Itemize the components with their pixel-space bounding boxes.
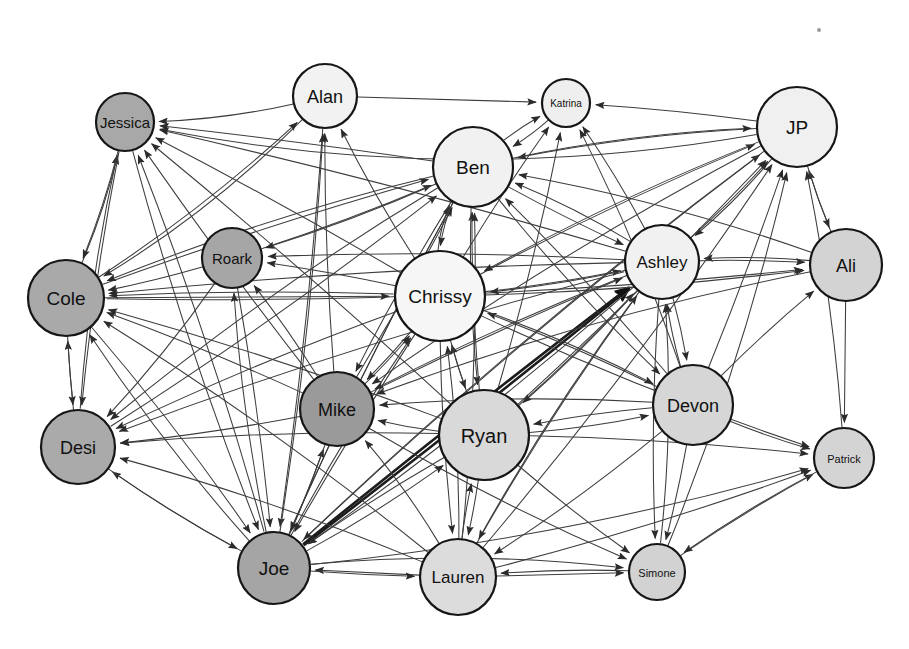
graph-edge [358, 97, 536, 102]
graph-edge [138, 155, 264, 531]
network-graph-svg: JessicaAlanKatrinaJPBenRoarkAshleyAliCol… [0, 0, 909, 649]
graph-node-roark[interactable]: Roark [202, 228, 262, 288]
graph-node-desi[interactable]: Desi [41, 410, 115, 484]
node-circle-devon[interactable] [653, 365, 733, 445]
node-circle-ben[interactable] [433, 127, 513, 207]
graph-edge [844, 301, 845, 422]
graph-edge [68, 336, 73, 405]
paper-specks-layer [817, 28, 821, 32]
graph-edge [808, 166, 830, 227]
graph-edge [112, 472, 242, 552]
graph-edge [234, 293, 266, 532]
graph-edge [518, 129, 757, 158]
graph-node-joe[interactable]: Joe [238, 532, 310, 604]
graph-node-chrissy[interactable]: Chrissy [395, 251, 485, 341]
graph-edge [721, 291, 813, 376]
graph-edge [109, 263, 624, 294]
node-circle-simone[interactable] [629, 544, 685, 600]
graph-edge [105, 296, 389, 298]
paper-speck [817, 28, 821, 32]
graph-edge [534, 408, 653, 425]
node-circle-mike[interactable] [300, 372, 374, 446]
node-circle-ali[interactable] [810, 229, 882, 301]
graph-edge [307, 465, 444, 550]
graph-node-ali[interactable]: Ali [810, 229, 882, 301]
node-circle-joe[interactable] [238, 532, 310, 604]
graph-edge [700, 260, 805, 262]
graph-edge [91, 327, 250, 533]
graph-node-simone[interactable]: Simone [629, 544, 685, 600]
graph-edge [468, 480, 478, 535]
graph-node-ben[interactable]: Ben [433, 127, 513, 207]
graph-edge [159, 104, 293, 122]
graph-edge [496, 573, 623, 576]
graph-edge [83, 150, 118, 258]
node-circle-cole[interactable] [28, 260, 104, 336]
network-graph-canvas: JessicaAlanKatrinaJPBenRoarkAshleyAliCol… [0, 0, 909, 649]
graph-edge [267, 263, 395, 286]
graph-edge [280, 128, 323, 526]
graph-node-jessica[interactable]: Jessica [96, 93, 154, 151]
graph-node-ashley[interactable]: Ashley [625, 225, 699, 299]
graph-edge [508, 187, 623, 245]
node-circle-patrick[interactable] [814, 428, 874, 488]
node-circle-ryan[interactable] [439, 390, 529, 480]
graph-node-patrick[interactable]: Patrick [814, 428, 874, 488]
graph-node-katrina[interactable]: Katrina [542, 79, 590, 127]
node-circle-roark[interactable] [202, 228, 262, 288]
graph-edge [308, 457, 444, 543]
nodes-layer: JessicaAlanKatrinaJPBenRoarkAshleyAliCol… [28, 64, 882, 615]
graph-edge [504, 116, 541, 140]
graph-edge [513, 128, 751, 158]
graph-edge [730, 421, 810, 449]
node-circle-lauren[interactable] [420, 539, 496, 615]
graph-node-ryan[interactable]: Ryan [439, 390, 529, 480]
graph-edge [518, 465, 630, 553]
graph-edge [111, 188, 438, 420]
graph-edge [680, 474, 813, 555]
graph-edge [515, 183, 630, 242]
node-circle-ashley[interactable] [625, 225, 699, 299]
graph-edge [668, 173, 787, 546]
graph-edge [108, 267, 203, 290]
node-circle-alan[interactable] [293, 64, 357, 128]
graph-edge [302, 155, 760, 542]
graph-edge [108, 310, 441, 419]
graph-edge [160, 126, 433, 161]
graph-edge [109, 469, 237, 549]
node-circle-jp[interactable] [757, 87, 837, 167]
graph-node-jp[interactable]: JP [757, 87, 837, 167]
graph-edge [596, 105, 757, 121]
graph-edge [513, 120, 548, 147]
graph-edge [237, 288, 270, 527]
graph-edge [103, 179, 429, 284]
graph-edge [104, 321, 428, 552]
graph-node-lauren[interactable]: Lauren [420, 539, 496, 615]
node-circle-katrina[interactable] [542, 79, 590, 127]
graph-edge [486, 271, 621, 292]
graph-node-alan[interactable]: Alan [293, 64, 357, 128]
graph-edge [365, 441, 439, 544]
graph-edge [708, 170, 782, 368]
graph-edge [378, 420, 439, 431]
graph-node-cole[interactable]: Cole [28, 260, 104, 336]
graph-node-devon[interactable]: Devon [653, 365, 733, 445]
node-circle-jessica[interactable] [96, 93, 154, 151]
graph-node-mike[interactable]: Mike [300, 372, 374, 446]
graph-edge [109, 292, 393, 296]
node-circle-desi[interactable] [41, 410, 115, 484]
node-circle-chrissy[interactable] [395, 251, 485, 341]
